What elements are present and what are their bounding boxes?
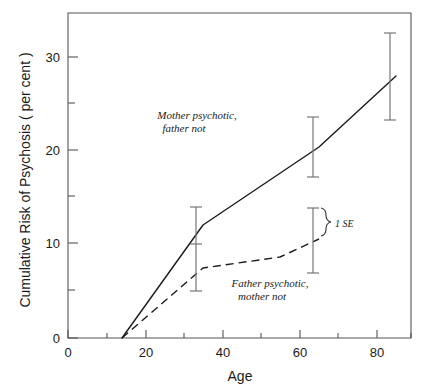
y-tick-label-0: 0 <box>53 331 60 346</box>
y-tick-label-20: 20 <box>46 143 60 158</box>
errorbar-mother-age85 <box>384 33 396 120</box>
annotation-mother-line2: father not <box>162 122 206 134</box>
errorbar-mother-age35 <box>190 207 202 244</box>
annotation-mother-line1: Mother psychotic, <box>156 109 237 121</box>
x-axis-ticks <box>68 330 411 338</box>
se-brace-icon <box>321 208 331 236</box>
annotation-father-line1: Father psychotic, <box>231 277 309 289</box>
errorbar-father-age35 <box>190 244 202 291</box>
cumulative-risk-line-chart: 30 20 10 0 0 20 40 60 80 Age Cumulative … <box>0 0 423 391</box>
errorbar-mother-age65 <box>307 117 319 177</box>
x-tick-label-20: 20 <box>139 345 153 360</box>
y-tick-label-30: 30 <box>46 50 60 65</box>
y-axis-ticks <box>68 57 78 338</box>
se-annotation-label: 1 SE <box>335 218 354 229</box>
y-axis-title: Cumulative Risk of Psychosis ( per cent … <box>17 52 33 307</box>
annotation-father-psychotic: Father psychotic, mother not <box>231 277 309 302</box>
x-tick-label-80: 80 <box>370 345 384 360</box>
x-axis-title: Age <box>228 368 253 384</box>
x-tick-label-0: 0 <box>64 345 71 360</box>
annotation-mother-psychotic: Mother psychotic, father not <box>156 109 237 134</box>
y-tick-label-10: 10 <box>46 236 60 251</box>
x-tick-label-60: 60 <box>293 345 307 360</box>
figure-container: 30 20 10 0 0 20 40 60 80 Age Cumulative … <box>0 0 423 391</box>
x-tick-label-40: 40 <box>216 345 230 360</box>
annotation-father-line2: mother not <box>238 290 287 302</box>
